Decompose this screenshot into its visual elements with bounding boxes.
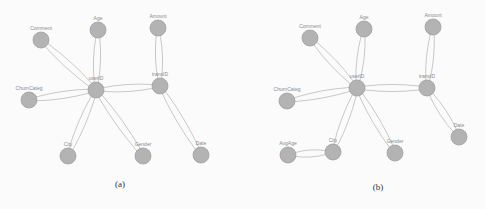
node-circle[interactable] (302, 30, 318, 46)
caption-b: (b) (373, 182, 384, 192)
edge-Comment-userID-1 (316, 42, 353, 82)
node-comment[interactable]: Comment (299, 23, 321, 46)
edge-userID-City-1 (337, 95, 356, 146)
node-age[interactable]: Age (90, 15, 106, 38)
node-label: Gender (135, 141, 152, 147)
node-circle[interactable] (356, 21, 372, 37)
edge-transID-Date-0 (429, 95, 453, 132)
node-label: Date (196, 140, 207, 146)
node-city[interactable]: City (60, 141, 76, 164)
node-avgage[interactable]: AvgAge (279, 140, 297, 163)
node-circle[interactable] (425, 19, 441, 35)
node-circle[interactable] (193, 147, 209, 163)
edge-ChurnCateg-userID-0 (36, 93, 89, 101)
node-city[interactable]: City (325, 137, 341, 160)
node-label: City (329, 137, 338, 143)
edge-ChurnCateg-userID-0 (294, 91, 350, 101)
node-circle[interactable] (150, 20, 166, 36)
node-circle[interactable] (419, 80, 435, 96)
node-circle[interactable] (88, 82, 104, 98)
node-label: Comment (30, 25, 52, 31)
node-circle[interactable] (280, 147, 296, 163)
node-amount[interactable]: Amount (424, 12, 442, 35)
node-label: Date (454, 122, 465, 128)
node-transid[interactable]: transID (152, 71, 169, 94)
edges-b (294, 34, 457, 157)
edge-AvgAge-City-1 (295, 150, 326, 153)
edge-Comment-userID-0 (314, 45, 351, 85)
node-label: Amount (424, 12, 442, 18)
node-label: City (64, 141, 73, 147)
edge-userID-transID-0 (364, 90, 420, 92)
node-circle[interactable] (279, 93, 295, 109)
node-amount[interactable]: Amount (149, 13, 167, 36)
node-date[interactable]: Date (193, 140, 209, 163)
node-circle[interactable] (349, 80, 365, 96)
node-circle[interactable] (60, 148, 76, 164)
node-userid[interactable]: userID (88, 75, 104, 98)
edge-userID-City-0 (69, 96, 91, 149)
edge-AvgAge-City-0 (295, 154, 326, 157)
node-label: Age (360, 14, 369, 20)
edge-userID-Gender-0 (359, 95, 390, 148)
node-circle[interactable] (451, 129, 467, 145)
edge-transID-Date-1 (165, 91, 199, 148)
node-circle[interactable] (21, 92, 37, 108)
node-circle[interactable] (325, 144, 341, 160)
node-date[interactable]: Date (451, 122, 467, 145)
node-label: ChurnCateg (274, 86, 301, 92)
node-circle[interactable] (387, 145, 403, 161)
edge-userID-transID-1 (364, 84, 420, 86)
node-label: Age (94, 15, 103, 21)
node-circle[interactable] (33, 32, 49, 48)
node-userid[interactable]: userID (349, 73, 365, 96)
node-label: Gender (387, 138, 404, 144)
node-label: userID (350, 73, 365, 79)
node-label: AvgAge (279, 140, 297, 146)
edge-Comment-userID-1 (48, 43, 92, 83)
node-label: Comment (299, 23, 321, 29)
edge-userID-Gender-0 (99, 97, 138, 151)
panel-b: CommentAgeAmountChurnCateguserIDtransIDA… (274, 12, 467, 192)
edge-userID-transID-0 (103, 88, 153, 92)
node-label: ChurnCateg (16, 85, 43, 91)
node-gender[interactable]: Gender (135, 141, 152, 164)
node-circle[interactable] (135, 148, 151, 164)
caption-a: (a) (115, 179, 125, 189)
edge-ChurnCateg-userID-1 (36, 89, 89, 97)
edge-ChurnCateg-userID-1 (294, 87, 350, 97)
node-label: transID (419, 73, 436, 79)
edge-userID-City-1 (73, 97, 95, 150)
node-transid[interactable]: transID (419, 73, 436, 96)
nodes-a: CommentAgeAmountChurnCateguserIDtransIDC… (16, 13, 209, 164)
node-gender[interactable]: Gender (387, 138, 404, 161)
edge-userID-transID-1 (103, 84, 153, 88)
node-circle[interactable] (90, 22, 106, 38)
node-label: userID (89, 75, 104, 81)
node-label: transID (152, 71, 169, 77)
nodes-b: CommentAgeAmountChurnCateguserIDtransIDA… (274, 12, 467, 163)
node-circle[interactable] (152, 78, 168, 94)
edge-Comment-userID-0 (45, 46, 89, 86)
node-churncateg[interactable]: ChurnCateg (274, 86, 301, 109)
node-label: Amount (149, 13, 167, 19)
diagram-canvas: CommentAgeAmountChurnCateguserIDtransIDC… (0, 0, 485, 209)
edge-transID-Date-0 (162, 93, 196, 150)
panel-a: CommentAgeAmountChurnCateguserIDtransIDC… (16, 13, 209, 189)
node-age[interactable]: Age (356, 14, 372, 37)
edges-a (36, 35, 199, 151)
